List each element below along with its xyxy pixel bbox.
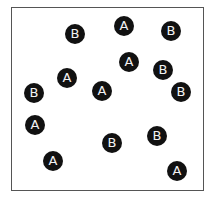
- circle-a: A: [167, 161, 187, 181]
- circle-a: A: [57, 68, 77, 88]
- circle-a: A: [43, 151, 63, 171]
- circle-b: B: [153, 60, 173, 80]
- circle-b: B: [102, 133, 122, 153]
- circle-b: B: [24, 83, 44, 103]
- circle-b: B: [161, 21, 181, 41]
- circle-a: A: [92, 81, 112, 101]
- circle-b: B: [65, 24, 85, 44]
- circle-a: A: [119, 52, 139, 72]
- circle-b: B: [171, 82, 191, 102]
- circle-a: A: [25, 115, 45, 135]
- circle-b: B: [147, 126, 167, 146]
- circle-a: A: [114, 16, 134, 36]
